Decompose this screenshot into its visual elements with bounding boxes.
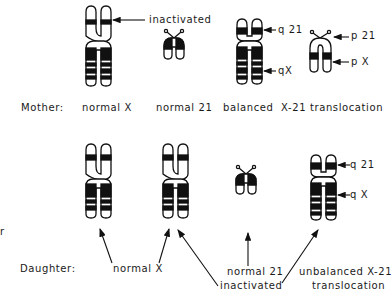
daughter-normal-x-chromosome-1 bbox=[86, 144, 111, 218]
row-label-daughter: Daughter: bbox=[20, 263, 76, 275]
label-normal-x-mother: normal X bbox=[82, 102, 132, 114]
daughter-unbalanced-translocation-chromosome bbox=[311, 155, 336, 220]
edge-fragment-text: r bbox=[0, 226, 5, 238]
label-p21-mother: p 21 bbox=[351, 30, 376, 42]
label-inactivated-mother: inactivated bbox=[149, 14, 212, 26]
arrow-inactivated-daughter-x bbox=[178, 230, 218, 286]
arrow-normal-x-2 bbox=[159, 229, 169, 263]
row-label-mother: Mother: bbox=[21, 102, 64, 114]
daughter-normal-x-chromosome-2 bbox=[163, 144, 188, 218]
label-normal-21-mother: normal 21 bbox=[156, 102, 212, 114]
mother-balanced-der-x-chromosome bbox=[237, 19, 262, 84]
label-px-mother: p X bbox=[351, 56, 369, 68]
label-q21-daughter: q 21 bbox=[350, 159, 375, 171]
mother-normal-x-chromosome bbox=[86, 6, 111, 86]
label-q21-mother: q 21 bbox=[278, 24, 303, 36]
mother-balanced-der-21-chromosome bbox=[310, 30, 331, 72]
arrow-normal-x-1 bbox=[100, 229, 112, 263]
label-unbalanced-line2: translocation bbox=[312, 280, 385, 292]
label-qx-mother: qX bbox=[278, 65, 292, 77]
label-inactivated-daughter: inactivated bbox=[220, 280, 283, 292]
label-unbalanced-line1: unbalanced X-21 bbox=[299, 266, 392, 278]
daughter-normal-21-chromosome bbox=[236, 165, 256, 194]
label-normal-x-daughter: normal X bbox=[113, 263, 163, 275]
mother-normal-21-chromosome bbox=[164, 29, 184, 59]
label-balanced-translocation: balanced X-21 translocation bbox=[223, 102, 383, 114]
label-qx-daughter: q X bbox=[350, 189, 368, 201]
label-normal-21-daughter: normal 21 bbox=[227, 266, 283, 278]
